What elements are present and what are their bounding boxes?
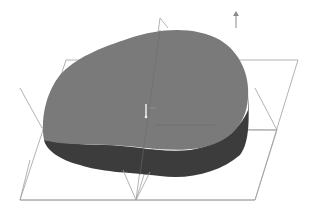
up-arrow-icon[interactable] [233,11,239,28]
cad-viewport[interactable] [0,0,315,214]
model-canvas[interactable] [0,0,315,214]
model-top-face[interactable] [43,30,248,150]
